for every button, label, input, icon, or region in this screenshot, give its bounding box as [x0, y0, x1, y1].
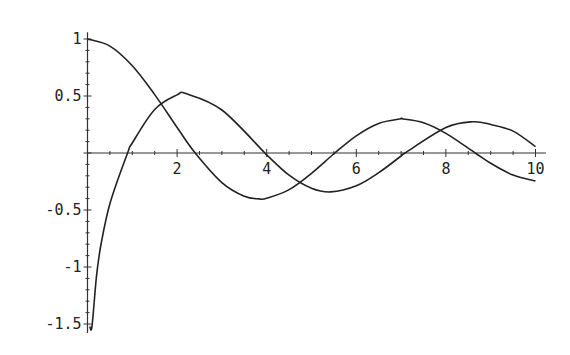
series-group	[88, 39, 536, 330]
y-tick-label: -0.5	[45, 201, 81, 219]
bessel-chart: 246810 10.5-0.5-1-1.5	[0, 0, 570, 355]
y-tick-label: 1	[72, 30, 81, 48]
x-axis: 246810	[88, 149, 547, 178]
series-line-y0	[90, 92, 536, 330]
x-tick-label: 6	[352, 160, 361, 178]
y-tick-label: -1.5	[45, 315, 81, 333]
y-axis: 10.5-0.5-1-1.5	[45, 30, 91, 333]
x-tick-label: 10	[526, 160, 544, 178]
series-line-j0	[88, 39, 536, 199]
y-tick-label: 0.5	[54, 87, 81, 105]
x-tick-label: 8	[441, 160, 450, 178]
x-tick-label: 2	[173, 160, 182, 178]
y-tick-label: -1	[63, 258, 81, 276]
x-tick-label: 4	[262, 160, 271, 178]
